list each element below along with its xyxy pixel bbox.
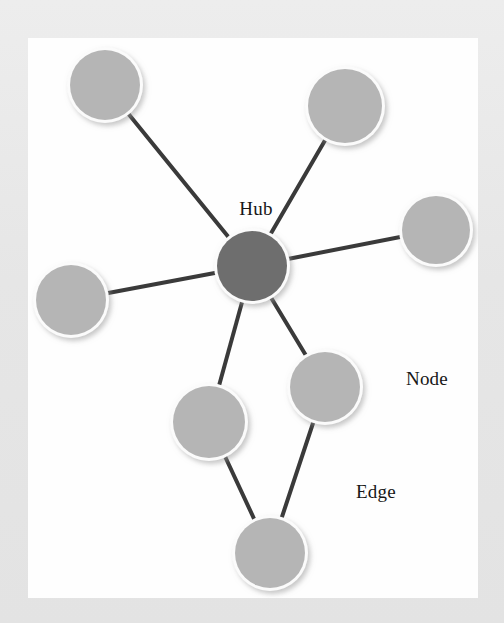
node-layer <box>33 47 473 591</box>
node-disc <box>36 265 106 335</box>
label-edge: Edge <box>356 482 396 501</box>
node-disc <box>235 518 305 588</box>
graph-node[interactable] <box>399 193 473 267</box>
graph-node[interactable] <box>232 515 308 591</box>
node-disc <box>173 386 245 458</box>
diagram-canvas: HubNodeEdge <box>28 38 478 598</box>
node-disc <box>217 231 287 301</box>
node-disc <box>308 69 382 143</box>
node-disc <box>402 196 470 264</box>
node-disc <box>290 352 360 422</box>
hub-node[interactable] <box>214 228 290 304</box>
graph-node[interactable] <box>287 349 363 425</box>
graph-node[interactable] <box>33 262 109 338</box>
graph-node[interactable] <box>170 383 248 461</box>
graph-node[interactable] <box>305 66 385 146</box>
node-disc <box>70 50 140 120</box>
label-node: Node <box>406 369 448 388</box>
network-graph <box>28 38 478 598</box>
figure-root: HubNodeEdge <box>0 0 504 623</box>
graph-node[interactable] <box>67 47 143 123</box>
label-hub: Hub <box>239 199 272 218</box>
